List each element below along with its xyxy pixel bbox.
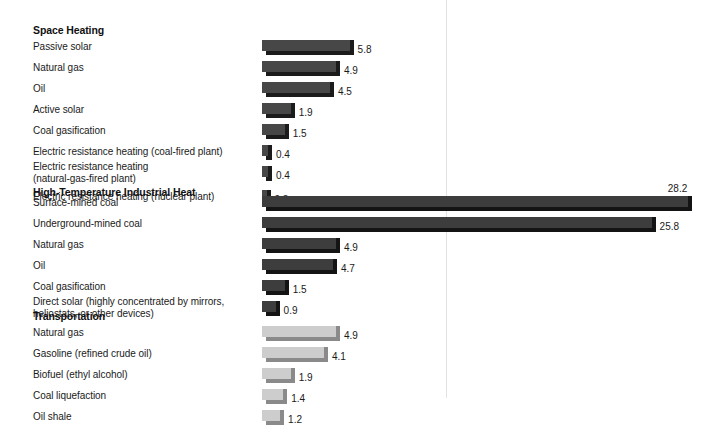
bar-bottom-shade [266,93,334,97]
bar-side-shade [336,326,340,337]
bar-side-shade [350,40,354,51]
bar-bottom-shade [266,337,340,341]
bar [262,61,340,76]
category-label: Passive solar [33,41,92,53]
bar [262,326,340,341]
bar [262,217,656,232]
bar-side-shade [291,103,295,114]
bar-bottom-shade [266,291,289,295]
bar-side-shade [291,368,295,379]
bar-face [262,259,333,270]
bar-bottom-shade [266,156,272,160]
bar-value-label: 1.5 [293,128,307,139]
bar-bottom-shade [266,312,280,316]
bar-side-shade [283,389,287,400]
category-label: Oil [33,83,45,95]
bar-value-label: 4.5 [338,86,352,97]
chart-row: Biofuel (ethyl alcohol)1.9 [0,368,718,385]
bar-value-label: 1.2 [288,414,302,425]
bar-value-label: 1.4 [291,393,305,404]
bar-face [262,347,324,358]
bar [262,368,295,383]
bar [262,145,272,160]
bar-face [262,61,336,72]
chart-row: Active solar1.9 [0,103,718,120]
bar-face [262,40,350,51]
category-label: Natural gas [33,62,84,74]
bar-bottom-shade [266,421,284,425]
bar-value-label: 25.8 [660,221,679,232]
bar-side-shade [688,196,692,207]
bar-side-shade [324,347,328,358]
bar-bottom-shade [266,135,289,139]
bar-value-label: 1.9 [299,372,313,383]
bar-value-label: 4.9 [344,65,358,76]
category-label: Natural gas [33,239,84,251]
bar-bottom-shade [266,379,295,383]
bar-bottom-shade [266,72,340,76]
bar-value-label: 1.5 [293,284,307,295]
bar-bottom-shade [266,270,337,274]
category-label: Underground-mined coal [33,218,142,230]
bar-value-label: 4.7 [341,263,355,274]
chart-row: Passive solar5.8 [0,40,718,57]
category-label: Coal gasification [33,281,106,293]
bar [262,103,295,118]
chart-row: Surface-mined coal28.2 [0,196,718,213]
bar-face [262,196,688,207]
chart-row: Natural gas4.9 [0,238,718,255]
bar-face [262,280,285,291]
chart-row: Oil4.7 [0,259,718,276]
bar-side-shade [285,280,289,291]
bar-face [262,389,283,400]
group-title: Transportation [33,310,105,322]
group-title: Space Heating [33,24,104,36]
category-label: Electric resistance heating (natural-gas… [33,161,148,185]
bar [262,347,328,362]
bar-side-shade [336,238,340,249]
bar-face [262,103,291,114]
bar-bottom-shade [266,177,272,181]
bar [262,259,337,274]
bar-face [262,410,280,421]
bar [262,166,272,181]
chart-row: Oil4.5 [0,82,718,99]
bar-side-shade [280,410,284,421]
bar-bottom-shade [266,400,287,404]
category-label: Surface-mined coal [33,197,118,209]
bar [262,40,354,55]
chart-row: Electric resistance heating (natural-gas… [0,166,718,183]
bar-value-label: 28.2 [668,183,687,194]
bar [262,238,340,253]
chart-row: Coal gasification1.5 [0,124,718,141]
bar-bottom-shade [266,358,328,362]
bar [262,124,289,139]
bar-side-shade [268,166,272,177]
bar-side-shade [652,217,656,228]
category-label: Natural gas [33,327,84,339]
bar-bottom-shade [266,207,692,211]
bar [262,280,289,295]
chart-row: Coal gasification1.5 [0,280,718,297]
bar-face [262,124,285,135]
chart-row: Electric resistance heating (coal-fired … [0,145,718,162]
bar-side-shade [285,124,289,135]
bar-bottom-shade [266,249,340,253]
bar-value-label: 4.9 [344,242,358,253]
chart-row: Natural gas4.9 [0,326,718,343]
bar [262,410,284,425]
bar-face [262,238,336,249]
bar-side-shade [330,82,334,93]
category-label: Oil [33,260,45,272]
chart-row: Gasoline (refined crude oil)4.1 [0,347,718,364]
category-label: Active solar [33,104,84,116]
category-label: Oil shale [33,411,71,423]
bar-face [262,326,336,337]
bar-side-shade [336,61,340,72]
bar-value-label: 0.4 [276,149,290,160]
bar-value-label: 4.9 [344,330,358,341]
chart-row: Oil shale1.2 [0,410,718,427]
bar-face [262,368,291,379]
bar [262,196,692,211]
